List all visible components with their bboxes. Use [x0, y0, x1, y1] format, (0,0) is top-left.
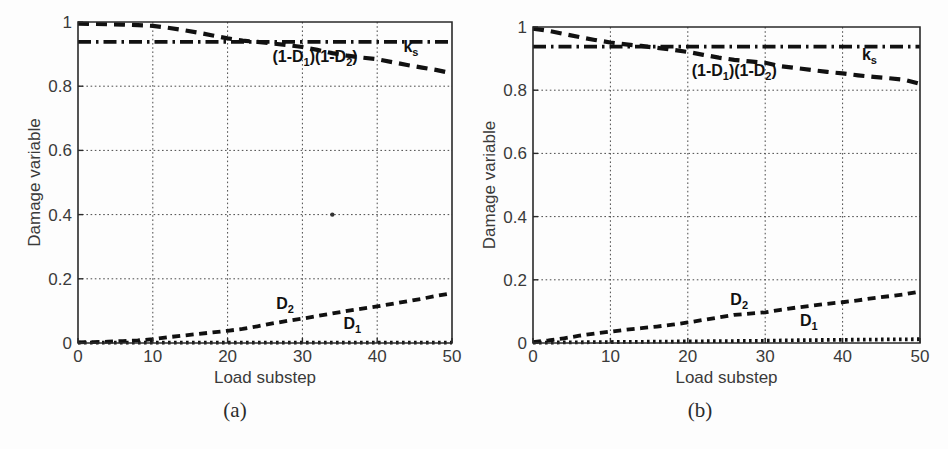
x-tick-label: 10 — [601, 347, 620, 366]
x-tick-label: 0 — [528, 347, 537, 366]
x-axis-title: Load substep — [214, 368, 316, 387]
x-tick-label: 20 — [678, 347, 697, 366]
chart-svg-b: 0102030405000.20.40.60.81Load substepDam… — [474, 0, 948, 449]
y-tick-label: 0.6 — [48, 141, 72, 160]
y-tick-label: 0.2 — [503, 271, 527, 290]
chart-panel-a: 0102030405000.20.40.60.81Load substepDam… — [0, 0, 474, 449]
d1-label: D1 — [800, 312, 818, 332]
gridlines-group — [78, 22, 452, 343]
y-tick-label: 0.2 — [48, 270, 72, 289]
x-tick-label: 50 — [911, 347, 930, 366]
y-tick-label: 0.8 — [503, 81, 527, 100]
x-tick-label: 30 — [756, 347, 775, 366]
series-line-d2 — [533, 291, 920, 342]
d2-label: D2 — [730, 291, 748, 311]
product-label: (1-D1)(1-D2) — [692, 62, 777, 82]
series-group — [78, 24, 452, 343]
chart-panel-b: 0102030405000.20.40.60.81Load substepDam… — [474, 0, 948, 449]
x-tick-label: 40 — [833, 347, 852, 366]
annotations-group: (1-D1)(1-D2)ksD2D1 — [272, 38, 418, 334]
chart-svg-a: 0102030405000.20.40.60.81Load substepDam… — [0, 0, 474, 449]
d2-label: D2 — [276, 295, 294, 315]
d1-label: D1 — [344, 315, 362, 335]
y-tick-label: 1 — [63, 13, 72, 32]
x-tick-label: 30 — [293, 347, 312, 366]
axes-group — [78, 22, 452, 343]
y-tick-label: 0.6 — [503, 144, 527, 163]
x-tick-label: 20 — [218, 347, 237, 366]
figure-container: 0102030405000.20.40.60.81Load substepDam… — [0, 0, 948, 449]
ks-label: ks — [862, 46, 877, 66]
y-tick-label: 0.8 — [48, 77, 72, 96]
plot-speck — [330, 212, 334, 216]
series-line-d2 — [78, 293, 452, 342]
y-tick-label: 0.4 — [48, 206, 72, 225]
panel-caption-a: (a) — [205, 398, 265, 423]
series-line-d1 — [533, 339, 920, 342]
x-tick-label: 40 — [368, 347, 387, 366]
y-tick-label: 1 — [518, 18, 527, 37]
product-label: (1-D1)(1-D2) — [272, 48, 357, 68]
x-tick-label: 10 — [143, 347, 162, 366]
annotations-group: (1-D1)(1-D2)ksD2D1 — [692, 46, 877, 331]
x-axis-title: Load substep — [675, 368, 777, 387]
x-tick-label: 50 — [443, 347, 462, 366]
y-axis-title: Damage variable — [480, 121, 499, 250]
y-axis-title: Damage variable — [25, 118, 44, 247]
axis-labels-group: 0102030405000.20.40.60.81Load substepDam… — [25, 13, 461, 387]
y-tick-label: 0 — [518, 334, 527, 353]
series-line-1d11d2 — [78, 24, 452, 74]
y-tick-label: 0.4 — [503, 208, 527, 227]
panel-caption-b: (b) — [670, 398, 730, 423]
y-tick-label: 0 — [63, 334, 72, 353]
x-tick-label: 0 — [73, 347, 82, 366]
axes-frame — [78, 22, 452, 343]
